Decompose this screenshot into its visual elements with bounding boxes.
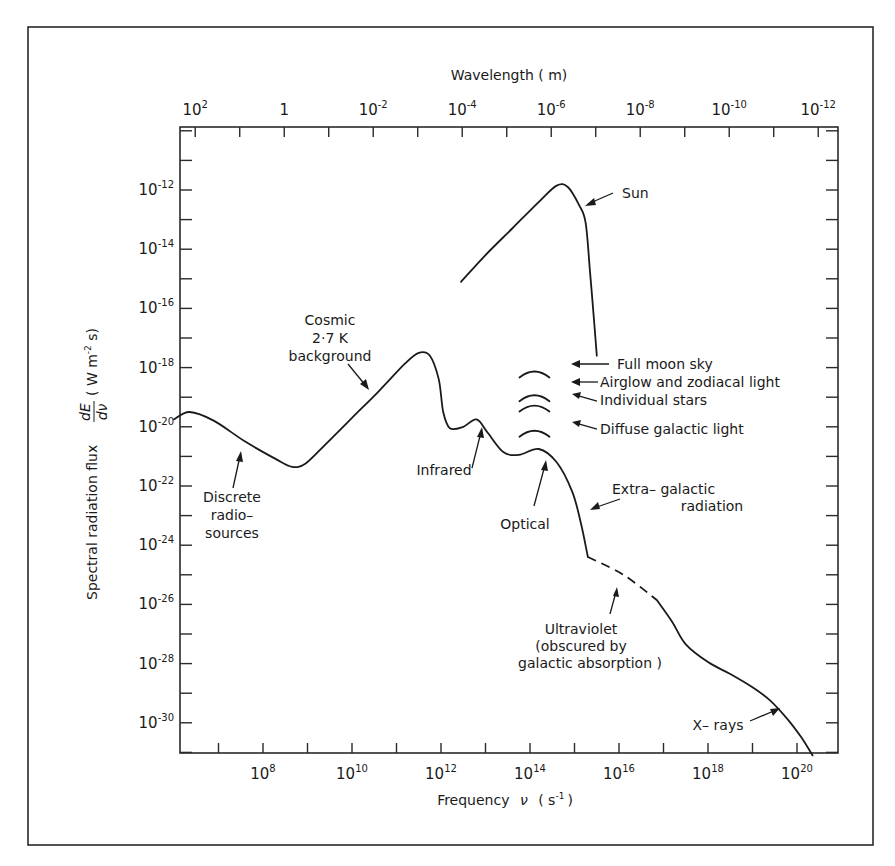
series-layer (174, 184, 813, 755)
y-tick-label: 10-12 (139, 179, 174, 199)
x-tick-label: 1018 (692, 763, 724, 783)
y-tick-label: 10-26 (139, 593, 174, 613)
x2-tick-label: 10-12 (801, 99, 836, 119)
y-tick-label: 10-30 (139, 712, 174, 732)
y-axis-ticks: 10-1210-1410-1610-1810-2010-2210-2410-26… (139, 131, 838, 753)
x2-tick-label: 10-8 (626, 99, 655, 119)
x-axis-ticks: 108101010121014101610181020 (219, 743, 813, 783)
arc-diffuse-galactic-light (519, 431, 549, 437)
x2-tick-label: 10-2 (359, 99, 388, 119)
label-extragalactic-line2: radiation (681, 498, 744, 514)
x2-tick-label: 10-4 (448, 99, 477, 119)
svg-text:Spectral radiation flux: Spectral radiation flux (84, 445, 100, 600)
label-xrays: X– rays (693, 717, 744, 733)
spectral-flux-chart: 108101010121014101610181020 102110-210-4… (0, 0, 895, 866)
x-tick-label: 1012 (425, 763, 457, 783)
y-tick-label: 10-16 (139, 297, 174, 317)
label-cmb-line2: 2·7 K (312, 330, 349, 346)
label-uv-line3: galactic absorption ) (518, 655, 662, 671)
x-tick-label: 108 (250, 763, 275, 783)
label-uv-line2: (obscured by (535, 638, 626, 654)
label-radio-line3: sources (205, 525, 259, 541)
label-cmb-line3: background (289, 348, 372, 364)
label-infrared: Infrared (416, 462, 471, 478)
y-axis-title: Spectral radiation flux dE dν ( W m-2 s) (77, 328, 110, 600)
x-tick-label: 1016 (603, 763, 635, 783)
svg-text:( W m-2 s): ( W m-2 s) (83, 328, 100, 396)
y-tick-label: 10-28 (139, 653, 174, 673)
arc-full-moon-sky (519, 372, 549, 378)
label-radio-line2: radio– (211, 507, 254, 523)
x2-tick-label: 1 (279, 101, 289, 119)
series-ultraviolet-obscured-by-galactic-absorption (588, 557, 657, 600)
label-cmb-line1: Cosmic (305, 312, 356, 328)
label-optical: Optical (500, 516, 549, 532)
y-tick-label: 10-22 (139, 475, 174, 495)
annotation-arrows (233, 193, 780, 721)
x2-tick-label: 10-6 (537, 99, 566, 119)
y-tick-label: 10-24 (139, 534, 174, 554)
label-sun: Sun (622, 185, 649, 201)
x-tick-label: 1014 (514, 763, 546, 783)
svg-text:dE: dE (77, 403, 93, 421)
label-diffuse-galactic: Diffuse galactic light (600, 421, 744, 437)
x2-axis-title: Wavelength ( m) (451, 67, 568, 83)
x-axis-title: Frequency ν ( s-1) (437, 791, 573, 808)
arc-airglow-and-zodiacal-light (519, 395, 549, 401)
plot-area-frame (180, 127, 838, 753)
y-tick-label: 10-20 (139, 416, 174, 436)
x2-axis-ticks: 102110-210-410-610-810-1010-12 (182, 99, 835, 137)
label-individual-stars: Individual stars (600, 392, 707, 408)
arc-individual-stars (519, 406, 549, 412)
y-tick-label: 10-14 (139, 238, 174, 258)
label-uv-line1: Ultraviolet (545, 621, 618, 637)
svg-text:dν: dν (94, 403, 110, 420)
y-tick-label: 10-18 (139, 357, 174, 377)
label-radio-line1: Discrete (203, 489, 261, 505)
label-extragalactic-line1: Extra– galactic (612, 481, 715, 497)
x-tick-label: 1020 (781, 763, 813, 783)
sky-brightness-arcs (519, 372, 549, 437)
x-tick-label: 1010 (336, 763, 368, 783)
label-full-moon: Full moon sky (617, 356, 713, 372)
x2-tick-label: 102 (182, 99, 207, 119)
series-sun (461, 184, 597, 356)
label-airglow: Airglow and zodiacal light (600, 374, 780, 390)
x2-tick-label: 10-10 (712, 99, 747, 119)
